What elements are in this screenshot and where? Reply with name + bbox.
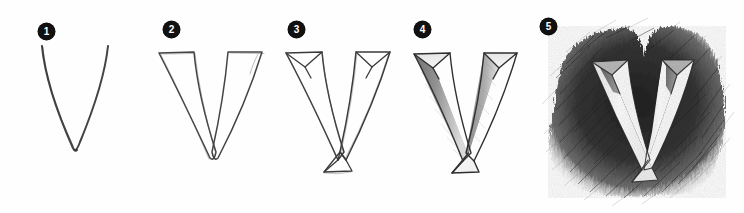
- v-skeleton-strokes: [42, 46, 108, 151]
- step-2-drawing: [146, 34, 276, 179]
- v-sketch-overstrokes-3: [287, 53, 389, 174]
- v-shaded-facets: [414, 53, 517, 173]
- step-5-drawing: [520, 12, 744, 212]
- step-1-drawing: [20, 38, 130, 168]
- tutorial-sheet: 1 2: [0, 0, 744, 213]
- v-bevel-facet-lines: [286, 52, 390, 172]
- v-beveled-outline: [286, 52, 390, 160]
- v-outline-right-stroke: [212, 52, 262, 159]
- scribble-grain-overlay: [548, 26, 726, 198]
- v-sketch-overstrokes: [160, 53, 264, 159]
- step-4-drawing: [398, 34, 534, 184]
- step-3-drawing: [272, 34, 404, 182]
